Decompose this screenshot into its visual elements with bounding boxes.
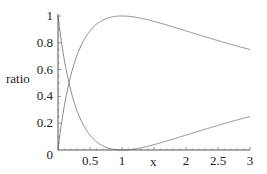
y-axis-label: ratio: [6, 71, 30, 86]
plot-area: [58, 16, 250, 150]
x-tick-label: 2: [183, 153, 190, 168]
x-tick-label: 1: [119, 153, 126, 168]
x-tick-label: 2.5: [210, 153, 226, 168]
y-tick-label: 1: [47, 8, 54, 23]
line-chart: 0.5122.5300.20.40.60.81 ratio x: [0, 0, 267, 174]
y-tick-label: 0.8: [37, 35, 53, 50]
y-tick-label: 0.6: [37, 62, 54, 77]
x-axis-label: x: [150, 154, 157, 169]
y-tick-label: 0.4: [37, 88, 54, 103]
axes: 0.5122.5300.20.40.60.81: [37, 8, 254, 168]
x-tick-label: 3: [247, 153, 254, 168]
y-tick-label: 0.2: [37, 115, 53, 130]
x-tick-label: 0.5: [82, 153, 98, 168]
y-tick-label: 0: [47, 147, 54, 162]
